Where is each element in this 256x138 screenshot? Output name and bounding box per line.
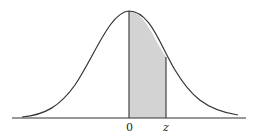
- shaded-area: [129, 11, 166, 118]
- normal-distribution-diagram: [0, 0, 256, 138]
- label-z: z: [163, 122, 169, 133]
- label-zero: 0: [126, 122, 133, 133]
